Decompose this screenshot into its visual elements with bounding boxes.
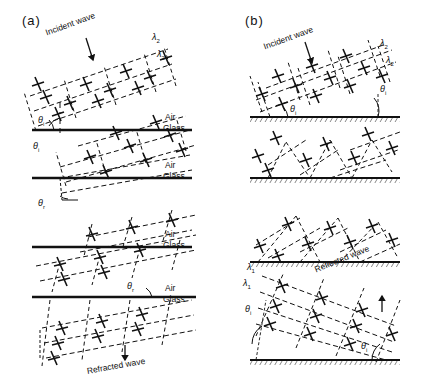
label-lambda-b-top-1: λ2 <box>380 38 388 50</box>
panel-b-stage2-reflecting <box>250 127 400 183</box>
figure-canvas: (a) (b) <box>0 0 434 384</box>
label-theta-i-b-1: θi <box>380 84 386 96</box>
label-theta-i-b-3: θi <box>245 304 251 316</box>
label-lambda-b-bot-1: λ1 <box>247 262 255 274</box>
label-lambda-b-bot-2: λ1 <box>243 278 251 290</box>
label-theta-i-b-2: θi <box>290 104 296 116</box>
panel-b-stage1-incident <box>250 40 400 122</box>
label-theta-i-b-4: θi <box>361 341 367 353</box>
label-lambda-b-top-2: λ2 <box>386 55 394 67</box>
panel-b-stage4-reflected <box>250 272 400 365</box>
panel-b-drawing <box>0 0 434 384</box>
